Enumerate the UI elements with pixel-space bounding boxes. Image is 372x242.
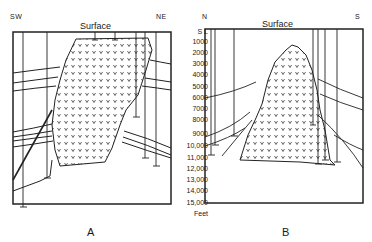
depth-tick: 8000 (174, 116, 208, 123)
panel-a (13, 32, 171, 207)
depth-tick: 15,000 (174, 199, 208, 206)
depth-tick: 14,000 (174, 187, 208, 194)
panel-a-left-direction: SW (10, 13, 22, 21)
depth-tick: 2000 (174, 49, 208, 56)
panel-a-caption: A (87, 228, 94, 236)
depth-tick: 6000 (174, 94, 208, 101)
panel-a-surface-label: Surface (80, 22, 111, 30)
depth-tick: 1000 (174, 38, 208, 45)
panel-b-surface-label: Surface (262, 20, 293, 28)
depth-tick: 13,000 (174, 176, 208, 183)
depth-tick: 5000 (174, 83, 208, 90)
depth-tick: 9000 (174, 130, 208, 137)
depth-tick: 10,000 (174, 142, 208, 149)
depth-tick: 4000 (174, 71, 208, 78)
panel-b-caption: B (282, 228, 289, 236)
depth-top-label: S L (174, 28, 208, 35)
depth-tick: 3000 (174, 60, 208, 67)
depth-tick: 11,000 (174, 154, 208, 161)
depth-unit: Feet (174, 210, 208, 217)
depth-tick: 12,000 (174, 165, 208, 172)
panel-b (205, 29, 363, 203)
panel-b-right-direction: S (355, 13, 360, 21)
panel-a-right-direction: NE (156, 13, 167, 21)
depth-tick: 7000 (174, 105, 208, 112)
panel-b-left-direction: N (202, 13, 208, 21)
